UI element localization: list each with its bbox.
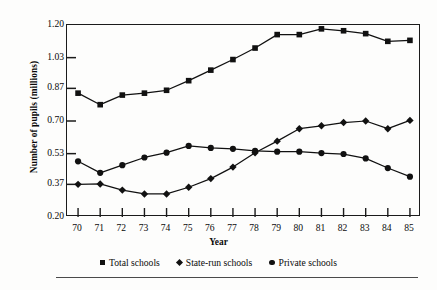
y-axis-tick-label: 0.20 <box>28 211 64 221</box>
data-point-marker <box>274 149 280 155</box>
x-axis-tick-label: 84 <box>376 222 398 233</box>
legend-label: Private schools <box>279 257 337 268</box>
data-point-marker <box>163 190 170 197</box>
data-point-marker <box>273 137 280 144</box>
data-point-marker <box>186 143 192 149</box>
data-point-marker <box>296 125 303 132</box>
y-axis-tick-label: 0.53 <box>28 148 64 158</box>
x-axis-title: Year <box>0 237 437 247</box>
y-axis-tick-label: 0.70 <box>28 115 64 125</box>
x-axis-tick-label: 81 <box>309 222 331 233</box>
data-point-marker <box>296 149 302 155</box>
data-point-marker <box>407 174 413 180</box>
x-axis-tick-label: 79 <box>265 222 287 233</box>
y-axis-tick-label: 1.20 <box>28 19 64 29</box>
legend-label: State-run schools <box>186 257 252 268</box>
data-point-marker <box>164 87 170 93</box>
data-point-marker <box>230 57 236 63</box>
x-axis-tick-label: 76 <box>199 222 221 233</box>
data-point-marker <box>363 31 369 37</box>
data-point-marker <box>362 117 369 124</box>
data-point-marker <box>385 165 391 171</box>
data-point-marker <box>318 122 325 129</box>
data-point-marker <box>297 32 303 38</box>
series-layer <box>67 25 421 217</box>
data-point-marker <box>252 45 258 51</box>
data-point-marker <box>252 148 258 154</box>
x-axis-tick-label: 71 <box>88 222 110 233</box>
footer-divider <box>56 277 418 278</box>
y-axis-tick-label: 0.87 <box>28 82 64 92</box>
data-point-marker <box>119 162 125 168</box>
data-point-marker <box>96 180 103 187</box>
series-state-run-schools <box>74 117 413 198</box>
series-private-schools <box>75 143 413 180</box>
data-point-marker <box>75 158 81 164</box>
data-point-marker <box>207 175 214 182</box>
x-axis-tick-label: 77 <box>221 222 243 233</box>
legend-item[interactable]: State-run schools <box>177 257 252 268</box>
data-point-marker <box>208 67 214 73</box>
x-axis-tick-label: 85 <box>398 222 420 233</box>
data-point-marker <box>186 78 192 84</box>
data-point-marker <box>363 155 369 161</box>
x-axis-tick-label: 73 <box>132 222 154 233</box>
data-point-marker <box>230 146 236 152</box>
x-axis-tick-label: 74 <box>155 222 177 233</box>
diamond-marker-icon <box>176 259 183 266</box>
series-line <box>78 146 410 177</box>
data-point-marker <box>341 28 347 34</box>
data-point-marker <box>185 184 192 191</box>
x-axis-tick-label: 82 <box>332 222 354 233</box>
data-point-marker <box>208 145 214 151</box>
data-point-marker <box>120 92 126 98</box>
plot-area <box>66 24 420 216</box>
data-point-marker <box>74 181 81 188</box>
data-point-marker <box>340 119 347 126</box>
data-point-marker <box>407 38 413 44</box>
chart-figure: Number of pupils (millions) 1.201.030.87… <box>0 0 437 290</box>
data-point-marker <box>119 186 126 193</box>
data-point-marker <box>340 151 346 157</box>
data-point-marker <box>406 117 413 124</box>
data-point-marker <box>274 32 280 38</box>
series-total-schools <box>75 26 412 107</box>
x-axis-tick-label: 78 <box>243 222 265 233</box>
data-point-marker <box>318 150 324 156</box>
data-point-marker <box>163 150 169 156</box>
y-axis-tick-label: 0.37 <box>28 178 64 188</box>
data-point-marker <box>142 90 148 96</box>
y-axis-tick-label: 1.03 <box>28 52 64 62</box>
series-line <box>78 29 410 105</box>
circle-marker-icon <box>269 260 274 265</box>
data-point-marker <box>319 26 325 32</box>
legend-item[interactable]: Private schools <box>269 257 337 268</box>
square-marker-icon <box>100 260 105 265</box>
data-point-marker <box>384 125 391 132</box>
x-axis-tick-label: 72 <box>110 222 132 233</box>
chart-legend: Total schoolsState-run schoolsPrivate sc… <box>0 257 437 268</box>
x-axis-tick-label: 70 <box>66 222 88 233</box>
x-axis-tick-label: 75 <box>177 222 199 233</box>
data-point-marker <box>97 102 103 108</box>
legend-item[interactable]: Total schools <box>100 257 160 268</box>
legend-label: Total schools <box>109 257 160 268</box>
x-axis-tick-label: 80 <box>287 222 309 233</box>
data-point-marker <box>141 190 148 197</box>
data-point-marker <box>141 154 147 160</box>
x-axis-tick-label: 83 <box>354 222 376 233</box>
data-point-marker <box>97 170 103 176</box>
data-point-marker <box>229 163 236 170</box>
data-point-marker <box>75 90 81 96</box>
data-point-marker <box>385 39 391 45</box>
